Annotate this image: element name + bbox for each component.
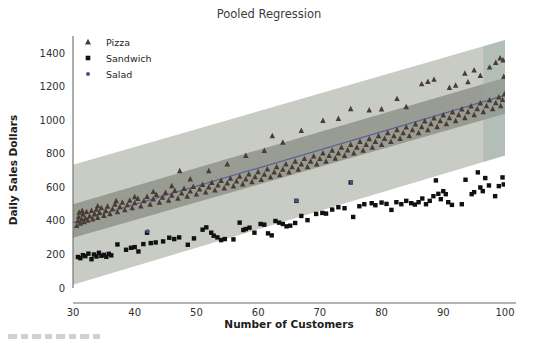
x-tick-label-70: 70 (313, 307, 326, 318)
data-point-marker (357, 204, 361, 208)
data-point-marker (481, 189, 485, 193)
data-point-marker (86, 251, 90, 255)
data-point-marker (487, 183, 491, 187)
data-point-marker (404, 199, 408, 203)
data-point-marker (149, 241, 153, 245)
data-point-marker (342, 206, 346, 210)
data-point-marker (161, 239, 165, 243)
y-tick-label-1400: 1400 (40, 48, 65, 59)
y-tick-label-600: 600 (46, 182, 65, 193)
data-point-marker (124, 248, 128, 252)
data-point-marker (204, 225, 208, 229)
chart-title: Pooled Regression (217, 7, 322, 21)
data-point-marker (439, 197, 443, 201)
data-point-marker (336, 205, 340, 209)
data-point-marker (384, 202, 388, 206)
data-point-marker (389, 208, 393, 212)
data-point-marker (394, 200, 398, 204)
x-tick-label-100: 100 (495, 307, 514, 318)
data-point-marker (472, 190, 476, 194)
data-point-marker (399, 202, 403, 206)
data-point-marker (428, 199, 432, 203)
x-tick-label-30: 30 (67, 307, 80, 318)
data-point-marker (288, 223, 292, 227)
data-point-marker (252, 231, 256, 235)
legend-label-sandwich: Sandwich (106, 53, 152, 64)
y-tick-label-400: 400 (46, 215, 65, 226)
data-point-marker (153, 240, 157, 244)
x-tick-label-90: 90 (437, 307, 450, 318)
figure-container: 30405060708090100 0200400600800100012001… (0, 0, 538, 340)
data-point-marker (450, 203, 454, 207)
data-point-marker (136, 249, 140, 253)
data-point-marker (133, 245, 137, 249)
data-point-marker (192, 236, 196, 240)
data-point-marker (373, 203, 377, 207)
data-point-marker (431, 194, 435, 198)
data-point-marker (500, 175, 504, 179)
x-tick-label-50: 50 (190, 307, 203, 318)
legend-label-pizza: Pizza (106, 37, 130, 48)
data-point-marker (434, 178, 438, 182)
data-point-marker (167, 236, 171, 240)
x-axis-label: Number of Customers (224, 318, 353, 330)
data-point-marker (379, 200, 383, 204)
data-point-marker (349, 180, 353, 184)
data-point-marker (86, 56, 91, 61)
data-point-marker (177, 235, 181, 239)
data-point-marker (305, 218, 309, 222)
data-point-marker (89, 257, 93, 261)
data-point-marker (444, 192, 448, 196)
y-tick-label-800: 800 (46, 148, 65, 159)
data-point-marker (299, 214, 303, 218)
data-point-marker (493, 194, 497, 198)
data-point-marker (146, 229, 150, 233)
data-point-marker (247, 225, 251, 229)
data-point-marker (463, 178, 467, 182)
y-tick-label-1000: 1000 (40, 115, 65, 126)
data-point-marker (172, 237, 176, 241)
data-point-marker (262, 222, 266, 226)
pooled-regression-chart: 30405060708090100 0200400600800100012001… (0, 0, 538, 340)
data-point-marker (497, 184, 501, 188)
data-point-marker (86, 72, 90, 76)
data-point-marker (223, 237, 227, 241)
data-point-marker (141, 242, 145, 246)
data-point-marker (293, 221, 297, 225)
data-point-marker (294, 199, 298, 203)
data-point-marker (483, 176, 487, 180)
y-tick-label-1200: 1200 (40, 81, 65, 92)
data-point-marker (460, 202, 464, 206)
y-tick-label-200: 200 (46, 249, 65, 260)
data-point-marker (115, 242, 119, 246)
x-tick-label-60: 60 (252, 307, 265, 318)
data-point-marker (270, 233, 274, 237)
data-point-marker (476, 170, 480, 174)
data-point-marker (362, 202, 366, 206)
legend-label-salad: Salad (106, 69, 132, 80)
data-point-marker (237, 220, 241, 224)
data-point-marker (314, 212, 318, 216)
data-point-marker (324, 211, 328, 215)
x-tick-label-80: 80 (375, 307, 388, 318)
x-tick-label-40: 40 (128, 307, 141, 318)
data-point-marker (330, 207, 334, 211)
y-tick-label-0: 0 (59, 283, 65, 294)
data-point-marker (420, 196, 424, 200)
data-point-marker (186, 243, 190, 247)
y-axis-label: Daily Sales Dollars (7, 115, 19, 225)
data-point-marker (436, 192, 440, 196)
data-point-marker (109, 253, 113, 257)
data-point-marker (231, 237, 235, 241)
data-point-marker (351, 215, 355, 219)
